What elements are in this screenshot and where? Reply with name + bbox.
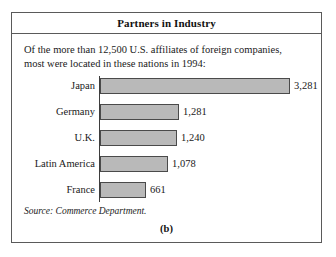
source-note: Source: Commerce Department. — [24, 206, 147, 216]
bar-row: U.K.1,240 — [12, 130, 321, 146]
bar-value-label: 1,078 — [172, 156, 196, 172]
bar-row: Germany1,281 — [12, 104, 321, 120]
page-title: Partners in Industry — [117, 18, 216, 29]
bar-category-label: Germany — [12, 104, 95, 120]
chart-body: Of the more than 12,500 U.S. affiliates … — [12, 34, 321, 242]
figure-frame: Partners in Industry Of the more than 12… — [11, 12, 322, 243]
bar — [100, 78, 290, 94]
bar — [100, 104, 179, 120]
bar-value-label: 3,281 — [294, 78, 318, 94]
bar-value-label: 1,281 — [183, 104, 207, 120]
bar-category-label: Japan — [12, 78, 95, 94]
bar-chart-plot-area: Japan3,281Germany1,281U.K.1,240Latin Ame… — [12, 76, 321, 202]
panel-label: (b) — [12, 223, 321, 234]
bar-value-label: 1,240 — [181, 130, 205, 146]
bar — [100, 130, 177, 146]
bar-category-label: Latin America — [12, 156, 95, 172]
chart-subtitle: Of the more than 12,500 U.S. affiliates … — [24, 43, 296, 70]
bar-value-label: 661 — [150, 182, 166, 198]
bar-row: France661 — [12, 182, 321, 198]
bar-row: Latin America1,078 — [12, 156, 321, 172]
bar — [100, 156, 168, 172]
figure-root: Partners in Industry Of the more than 12… — [0, 0, 336, 257]
bar-category-label: France — [12, 182, 95, 198]
bar-category-label: U.K. — [12, 130, 95, 146]
bar — [100, 182, 146, 198]
title-band: Partners in Industry — [12, 13, 321, 34]
bar-row: Japan3,281 — [12, 78, 321, 94]
